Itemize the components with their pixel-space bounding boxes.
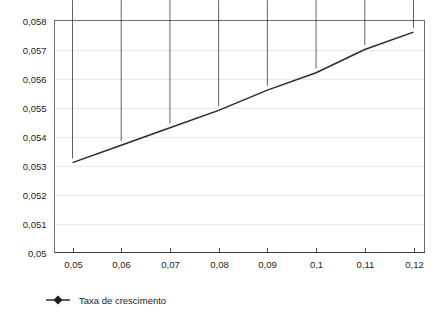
legend-item-label: Taxa de crescimento: [79, 295, 166, 306]
x-axis-tick-label: 0,05: [64, 259, 83, 270]
y-axis-tick-labels: 0,0580,0570,0560,0550,0540,0530,0520,051…: [23, 16, 47, 259]
y-axis-tick-label: 0,054: [23, 132, 47, 143]
growth-rate-line-chart: 0,0580,0570,0560,0550,0540,0530,0520,051…: [0, 0, 438, 322]
x-axis-tick-label: 0,07: [161, 259, 180, 270]
chart-container: 0,0580,0570,0560,0550,0540,0530,0520,051…: [0, 0, 438, 322]
y-axis-tick-label: 0,057: [23, 45, 47, 56]
y-axis-tick-label: 0,051: [23, 219, 47, 230]
x-axis-tick-label: 0,08: [210, 259, 229, 270]
plot-area-background: [55, 21, 425, 253]
y-axis-tick-label: 0,058: [23, 16, 47, 27]
x-axis-tick-label: 0,1: [310, 259, 323, 270]
x-axis-tick-label: 0,06: [112, 259, 131, 270]
y-axis-tick-label: 0,052: [23, 190, 47, 201]
y-axis-tick-label: 0,055: [23, 103, 47, 114]
y-axis-tick-label: 0,053: [23, 161, 47, 172]
y-axis-tick-label: 0,05: [28, 248, 47, 259]
x-axis-tick-label: 0,11: [357, 259, 375, 270]
x-axis-tick-label: 0,09: [258, 259, 277, 270]
x-axis-tick-label: 0,12: [405, 259, 424, 270]
y-axis-tick-label: 0,056: [23, 74, 47, 85]
